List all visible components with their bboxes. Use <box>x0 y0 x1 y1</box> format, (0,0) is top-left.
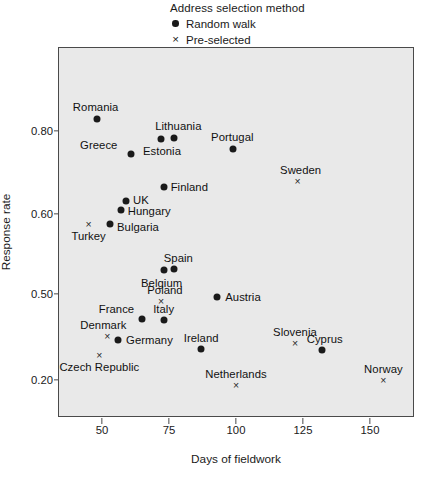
data-point-label: Spain <box>164 252 193 264</box>
data-point: × <box>94 349 105 360</box>
data-point <box>230 145 237 152</box>
legend-entry-label: Random walk <box>186 18 256 30</box>
x-axis-tick-mark <box>302 418 303 424</box>
legend-entry-pre-selected: × Pre-selected <box>170 33 410 47</box>
plot-canvas: RomaniaGreeceEstoniaLithuaniaPortugalFin… <box>59 48 413 416</box>
data-point-label: Norway <box>364 363 403 375</box>
data-point <box>115 337 122 344</box>
chart-figure: Address selection method Random walk × P… <box>0 0 426 481</box>
data-point-label: Romania <box>73 101 119 113</box>
filled-circle-icon <box>170 20 181 27</box>
data-point <box>123 197 130 204</box>
data-point <box>93 115 100 122</box>
data-point-label: Germany <box>126 334 173 346</box>
data-point <box>139 316 146 323</box>
data-point <box>107 220 114 227</box>
data-point: × <box>231 379 242 390</box>
x-axis-tick-mark <box>168 418 169 424</box>
data-point <box>128 150 135 157</box>
y-axis-tick-mark <box>54 379 59 380</box>
y-axis-tick-mark <box>54 130 59 131</box>
data-point-label: Slovenia <box>273 326 317 338</box>
x-axis-tick-mark <box>369 418 370 424</box>
data-point <box>318 346 325 353</box>
x-axis-tick-mark <box>235 418 236 424</box>
plot-area: RomaniaGreeceEstoniaLithuaniaPortugalFin… <box>58 47 414 417</box>
data-point-label: Austria <box>225 291 261 303</box>
data-point-label: France <box>99 303 134 315</box>
y-axis-tick-mark <box>54 213 59 214</box>
data-point <box>198 346 205 353</box>
y-axis-title: Response rate <box>0 47 14 417</box>
data-point: × <box>378 375 389 386</box>
data-point-label: Ireland <box>184 332 219 344</box>
data-point: × <box>292 175 303 186</box>
data-point <box>160 184 167 191</box>
data-point-label: Hungary <box>128 205 171 217</box>
y-axis-tick-mark <box>54 293 59 294</box>
data-point-label: Sweden <box>280 164 321 176</box>
data-point: × <box>289 337 300 348</box>
data-point: × <box>83 218 94 229</box>
data-point <box>171 135 178 142</box>
data-point <box>214 293 221 300</box>
chart-legend: Address selection method Random walk × P… <box>170 2 410 47</box>
data-point: × <box>102 331 113 342</box>
data-point-label: Greece <box>80 139 117 151</box>
y-axis-title-text: Response rate <box>0 194 13 271</box>
data-point-label: Turkey <box>71 230 105 242</box>
legend-title: Address selection method <box>170 2 410 14</box>
data-point-label: Bulgaria <box>117 221 159 233</box>
data-point-label: Netherlands <box>205 368 266 380</box>
data-point <box>171 266 178 273</box>
legend-entry-random-walk: Random walk <box>170 17 410 31</box>
x-axis-title: Days of fieldwork <box>58 452 414 466</box>
data-point-label: Czech Republic <box>59 361 139 373</box>
data-point-label: Lithuania <box>155 120 201 132</box>
data-point <box>117 206 124 213</box>
data-point-label: Estonia <box>143 145 181 157</box>
data-point: × <box>155 295 166 306</box>
x-axis-tick-mark <box>101 418 102 424</box>
data-point <box>160 267 167 274</box>
data-point-label: Finland <box>171 181 208 193</box>
data-point-label: Denmark <box>80 319 126 331</box>
data-point-label: Portugal <box>211 131 253 143</box>
legend-entry-label: Pre-selected <box>186 34 251 46</box>
data-point <box>157 136 164 143</box>
data-point-label: Poland <box>147 284 182 296</box>
cross-icon: × <box>170 34 181 46</box>
data-point <box>160 316 167 323</box>
